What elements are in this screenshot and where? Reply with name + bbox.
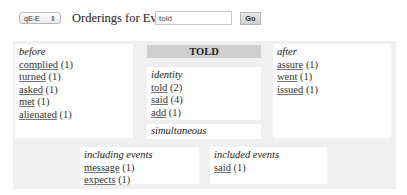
- event-count: (4): [171, 94, 183, 105]
- included-events-panel: included events said (1): [210, 147, 327, 184]
- before-panel: before complied (1) turned (1) asked (1)…: [15, 44, 133, 138]
- list-item: expects (1): [84, 174, 195, 187]
- event-title-header: TOLD: [147, 45, 261, 58]
- before-header: before: [19, 46, 129, 59]
- list-item: complied (1): [19, 59, 129, 72]
- event-link[interactable]: expects: [84, 174, 116, 185]
- simultaneous-panel: simultaneous: [147, 124, 261, 139]
- event-link[interactable]: said: [214, 162, 231, 173]
- simultaneous-header: simultaneous: [151, 125, 257, 138]
- select-value: qE-E: [24, 15, 40, 22]
- event-count: (1): [46, 84, 58, 95]
- event-count: (1): [122, 162, 134, 173]
- relation-type-select[interactable]: qE-E ⇕: [19, 12, 61, 24]
- event-count: (1): [169, 107, 181, 118]
- event-count: (1): [61, 59, 73, 70]
- updown-arrows-icon: ⇕: [50, 13, 56, 25]
- event-link[interactable]: complied: [19, 59, 58, 70]
- event-count: (1): [118, 174, 130, 185]
- list-item: alienated (1): [19, 109, 129, 122]
- after-panel: after assure (1) went (1) issued (1): [273, 44, 391, 138]
- event-link[interactable]: told: [151, 82, 167, 93]
- event-link[interactable]: said: [151, 94, 168, 105]
- list-item: said (4): [151, 94, 257, 107]
- event-link[interactable]: turned: [19, 71, 46, 82]
- event-count: (1): [37, 96, 49, 107]
- included-events-header: included events: [214, 149, 323, 162]
- event-link[interactable]: add: [151, 107, 166, 118]
- event-count: (1): [306, 59, 318, 70]
- event-link[interactable]: met: [19, 96, 35, 107]
- event-link[interactable]: assure: [277, 59, 303, 70]
- list-item: went (1): [277, 71, 387, 84]
- event-link[interactable]: went: [277, 71, 297, 82]
- list-item: met (1): [19, 96, 129, 109]
- including-events-panel: including events message (1) expects (1): [80, 147, 199, 184]
- list-item: message (1): [84, 162, 195, 175]
- event-count: (1): [48, 71, 60, 82]
- list-item: turned (1): [19, 71, 129, 84]
- event-link[interactable]: issued: [277, 84, 303, 95]
- event-link[interactable]: message: [84, 162, 120, 173]
- event-count: (1): [306, 84, 318, 95]
- event-count: (1): [234, 162, 246, 173]
- including-events-header: including events: [84, 149, 195, 162]
- event-count: (2): [170, 82, 182, 93]
- list-item: issued (1): [277, 84, 387, 97]
- go-button[interactable]: Go: [240, 12, 261, 25]
- identity-header: identity: [151, 69, 257, 82]
- event-link[interactable]: asked: [19, 84, 43, 95]
- event-search-input[interactable]: [155, 11, 232, 25]
- list-item: assure (1): [277, 59, 387, 72]
- list-item: add (1): [151, 107, 257, 120]
- after-header: after: [277, 46, 387, 59]
- event-count: (1): [300, 71, 312, 82]
- identity-panel: identity told (2) said (4) add (1): [147, 67, 261, 120]
- list-item: told (2): [151, 82, 257, 95]
- list-item: asked (1): [19, 84, 129, 97]
- list-item: said (1): [214, 162, 323, 175]
- event-link[interactable]: alienated: [19, 109, 57, 120]
- event-count: (1): [60, 109, 72, 120]
